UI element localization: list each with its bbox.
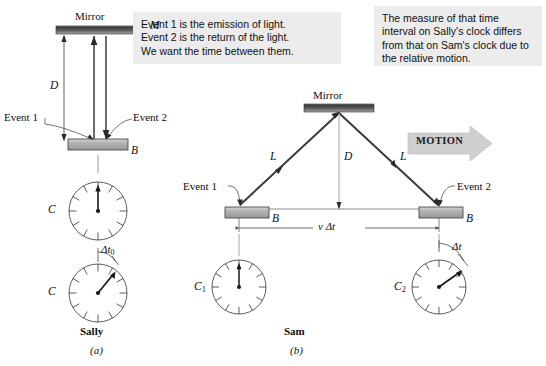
panel-b-distance-label: D	[344, 150, 352, 162]
panel-a-observer-label: Sally	[80, 325, 103, 337]
panel-b-displacement-dimension	[239, 218, 439, 234]
panel-b-block-label-left: B	[272, 212, 279, 224]
panel-b-interval-label: Δt	[452, 240, 462, 252]
panel-b-event1-label: Event 1	[183, 180, 217, 192]
panel-a-mirror-symbol: M	[150, 19, 160, 31]
panel-a-mirror-label: Mirror	[75, 10, 104, 22]
panel-b-block-right	[419, 207, 463, 218]
panel-a-light-beam-up	[91, 36, 98, 139]
panel-b-path-label-left: L	[270, 150, 276, 162]
panel-a-event1-label: Event 1	[4, 111, 38, 123]
panel-a-clock-top-label: C	[48, 203, 56, 215]
panel-b-clock-c1-symbol: C	[194, 280, 202, 292]
panel-a-caption: (a)	[90, 344, 103, 356]
panel-a-event2-label: Event 2	[133, 111, 167, 123]
panel-b-mirror-label: Mirror	[313, 89, 342, 101]
panel-a-block-label: B	[131, 144, 138, 156]
panel-a-interval-label: Δt0	[101, 243, 114, 257]
panel-a-distance-label: D	[50, 79, 58, 91]
callout-left: Event 1 is the emission of light. Event …	[133, 12, 341, 64]
physics-figure: Event 1 is the emission of light. Event …	[0, 0, 546, 366]
motion-label: MOTION	[416, 135, 463, 146]
panel-a-clock-bottom-label: C	[48, 285, 56, 297]
panel-b-clock-c2-label: C2	[394, 280, 406, 294]
panel-b-event2-leader	[437, 186, 455, 206]
panel-b-clock-c1-subscript: 1	[202, 285, 206, 294]
panel-a-interval-symbol: Δt	[101, 243, 111, 255]
panel-a-clock-bottom	[69, 264, 127, 322]
panel-a-event2-leader	[106, 119, 132, 140]
panel-b-clock-c2-symbol: C	[394, 280, 402, 292]
panel-a-clock-top	[69, 182, 127, 240]
panel-a-distance-D	[61, 35, 66, 142]
panel-b-event2-label: Event 2	[457, 180, 491, 192]
panel-a-interval-subscript: 0	[111, 248, 115, 257]
callout-right: The measure of that time interval on Sal…	[374, 6, 542, 66]
panel-b-block-label-right: B	[466, 212, 473, 224]
panel-b-event1-leader	[228, 186, 243, 206]
panel-b-beam-left	[240, 112, 341, 205]
panel-b-displacement-label: v Δt	[318, 220, 335, 232]
panel-a-diagram	[45, 26, 146, 322]
panel-a-light-beam-down	[103, 36, 110, 139]
panel-b-mirror	[304, 104, 374, 112]
panel-b-clock-c1	[212, 260, 266, 314]
panel-b-clock-c2-subscript: 2	[402, 285, 406, 294]
panel-b-clock-c2	[412, 260, 466, 314]
panel-b-observer-label: Sam	[284, 325, 305, 337]
panel-b-path-label-right: L	[400, 150, 406, 162]
panel-a-block	[68, 139, 128, 150]
panel-b-clock-c1-label: C1	[194, 280, 206, 294]
panel-b-caption: (b)	[290, 344, 303, 356]
panel-b-distance-D	[337, 113, 342, 210]
panel-b-beam-right	[339, 113, 439, 207]
panel-b-block-left	[225, 207, 269, 218]
panel-a-event1-leader	[45, 118, 94, 140]
